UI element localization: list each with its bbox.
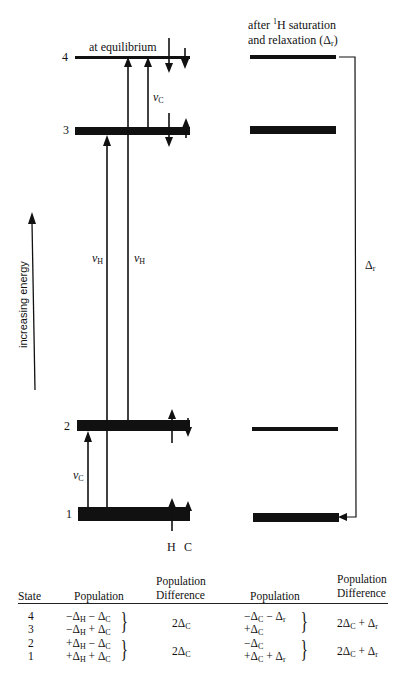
arrow-up-icon-nu-c-3-4 bbox=[144, 57, 152, 128]
header-population-after: Population bbox=[250, 590, 300, 602]
table-group-difference-21: 2ΔC bbox=[172, 645, 191, 659]
table-row-state-2: 2 bbox=[28, 637, 34, 649]
header-pop-diff-line2: Difference bbox=[156, 589, 205, 601]
arrow-up-icon-nu-h-1-3 bbox=[103, 135, 111, 508]
brace-icon-group-43-after: } bbox=[300, 608, 307, 634]
spin-arrow-up-icon-c-3 bbox=[182, 118, 190, 138]
relaxation-bracket-arrow-icon bbox=[338, 57, 356, 521]
table-header-rule bbox=[18, 603, 388, 604]
header-state: State bbox=[18, 590, 41, 602]
table-group-difference-43: 2ΔC bbox=[172, 617, 191, 631]
brace-icon-group-43: } bbox=[120, 608, 127, 634]
table-row-state-4: 4 bbox=[28, 610, 34, 622]
header-pop-diff-line1: Population bbox=[156, 575, 206, 587]
brace-icon-group-21-after: } bbox=[300, 636, 307, 662]
table-row-state-1: 1 bbox=[28, 650, 34, 662]
spin-arrow-up-icon-c-1 bbox=[184, 501, 192, 516]
spin-arrow-up-icon-h-2 bbox=[168, 409, 176, 443]
spin-arrow-down-icon-c-2 bbox=[184, 418, 192, 437]
energy-axis-arrow-icon bbox=[28, 212, 36, 390]
table-row-population-after-1: +ΔC + Δr bbox=[244, 650, 286, 664]
arrow-up-icon-nu-c-1-2 bbox=[84, 431, 92, 508]
brace-icon-group-21: } bbox=[120, 636, 127, 662]
header-pop-diff-after-line2: Difference bbox=[337, 587, 386, 599]
table-row-state-3: 3 bbox=[28, 623, 34, 635]
table-group-difference-after-43: 2ΔC + Δr bbox=[337, 617, 378, 631]
spin-arrow-down-icon-h-4 bbox=[165, 38, 173, 73]
spin-arrow-up-icon-h-1 bbox=[168, 498, 176, 531]
table-row-population-3: −ΔH + ΔC bbox=[66, 623, 111, 637]
table-row-population-after-3: +ΔC bbox=[244, 623, 263, 637]
header-pop-diff-after-line1: Population bbox=[337, 573, 387, 585]
table-group-difference-after-21: 2ΔC + Δr bbox=[337, 645, 378, 659]
table-row-population-1: +ΔH + ΔC bbox=[66, 650, 111, 664]
spin-arrow-down-icon-h-3 bbox=[165, 113, 173, 147]
header-population: Population bbox=[74, 590, 124, 602]
spin-arrow-down-icon-c-4 bbox=[181, 48, 189, 69]
arrow-up-icon-nu-h-2-4 bbox=[124, 57, 132, 421]
